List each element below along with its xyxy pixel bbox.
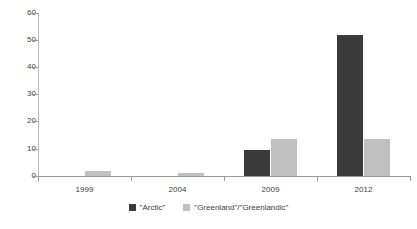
bar-chart: 60 50 40 30 20 10 0 1999200420092012 "Ar… xyxy=(0,0,417,229)
y-tick-label-0: 0 xyxy=(6,172,36,180)
category-tick-1999 xyxy=(131,176,132,181)
category-label-1999: 1999 xyxy=(38,185,131,194)
category-tick-2009 xyxy=(317,176,318,181)
category-tick-start xyxy=(38,176,39,181)
category-label-2012: 2012 xyxy=(317,185,410,194)
legend-label-greenland: "Greenland"/"Greenlandic" xyxy=(194,203,288,212)
category-tick-2004 xyxy=(224,176,225,181)
legend-entry-greenland[interactable]: "Greenland"/"Greenlandic" xyxy=(183,203,288,212)
category-label-2009: 2009 xyxy=(224,185,317,194)
legend-entry-arctic[interactable]: "Arctic" xyxy=(129,203,166,212)
chart-legend: "Arctic" "Greenland"/"Greenlandic" xyxy=(0,203,417,212)
plot-area xyxy=(38,13,410,176)
y-tick-label-40: 40 xyxy=(6,63,36,71)
bar-2012-series-2 xyxy=(364,139,390,176)
y-tick-label-60: 60 xyxy=(6,9,36,17)
y-tick-label-50: 50 xyxy=(6,36,36,44)
legend-swatch-icon-arctic xyxy=(129,204,136,211)
category-tick-2012 xyxy=(410,176,411,181)
bar-2009-series-1 xyxy=(244,150,270,176)
legend-swatch-icon-greenland xyxy=(183,204,190,211)
category-label-2004: 2004 xyxy=(131,185,224,194)
y-tick-label-10: 10 xyxy=(6,145,36,153)
y-tick-label-30: 30 xyxy=(6,90,36,98)
legend-label-arctic: "Arctic" xyxy=(140,203,166,212)
y-tick-label-20: 20 xyxy=(6,117,36,125)
bar-2009-series-2 xyxy=(271,139,297,176)
bar-2012-series-1 xyxy=(337,35,363,176)
